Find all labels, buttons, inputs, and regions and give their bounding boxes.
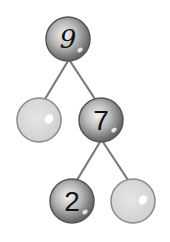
edge-root-left: [45, 61, 68, 99]
node-left-2-label: 2: [64, 186, 80, 217]
node-right-1-label: 7: [93, 105, 109, 136]
node-root: 9: [46, 17, 90, 61]
node-root-label: 9: [60, 24, 77, 54]
node-left-1-empty[interactable]: [17, 98, 61, 142]
node-left-2: 2: [50, 179, 94, 223]
edge-seven-right: [103, 142, 128, 180]
node-right-2-empty[interactable]: [111, 179, 155, 223]
edge-seven-left: [77, 142, 100, 180]
node-right-1: 7: [79, 98, 123, 142]
edge-root-right: [70, 61, 95, 99]
number-bond-diagram: 9 7 2: [0, 0, 170, 242]
